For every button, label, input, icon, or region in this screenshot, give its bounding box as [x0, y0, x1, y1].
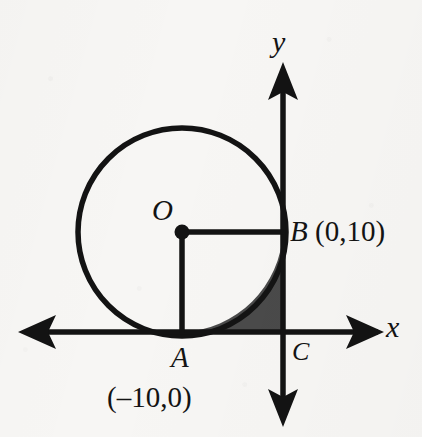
- point-label-O: O: [152, 196, 173, 225]
- point-label-B-letter: B: [290, 215, 308, 247]
- point-label-B: B (0,10): [290, 217, 385, 246]
- point-label-A-coord: (–10,0): [107, 383, 192, 412]
- y-axis-label: y: [272, 27, 285, 57]
- shaded-region: [182, 232, 283, 332]
- center-point-dot: [175, 225, 190, 240]
- figure-canvas: O B (0,10) A (–10,0) C x y: [0, 0, 422, 437]
- point-label-A: A: [171, 343, 189, 372]
- point-label-C: C: [292, 339, 309, 365]
- x-axis-label: x: [386, 312, 399, 342]
- point-label-B-coord: (0,10): [315, 215, 385, 247]
